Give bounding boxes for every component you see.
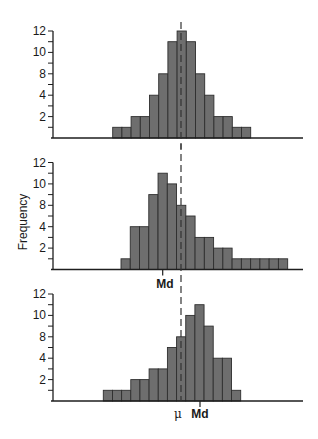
histogram-bar: [167, 184, 176, 270]
y-tick-label: 4: [39, 351, 46, 365]
histogram-bar: [149, 195, 158, 270]
histogram-bar: [149, 369, 158, 401]
histogram-bar: [140, 227, 149, 270]
top-histogram: 2481012: [33, 24, 303, 138]
histogram-bar: [232, 259, 241, 270]
histogram-bar: [214, 248, 223, 269]
histogram-bar: [205, 95, 214, 138]
middle-histogram: 2481012: [33, 156, 303, 276]
histogram-bar: [130, 227, 139, 270]
histogram-bar: [122, 390, 131, 401]
median-label-middle: Md: [156, 277, 173, 291]
y-tick-label: 12: [33, 156, 47, 170]
histogram-bar: [222, 358, 231, 401]
histogram-bar: [140, 117, 149, 138]
histogram-bar: [103, 390, 112, 401]
histogram-bar: [159, 74, 168, 138]
y-tick-label: 10: [33, 45, 47, 59]
histogram-bar: [177, 31, 186, 138]
histogram-bar: [204, 326, 213, 401]
y-tick-label: 2: [39, 373, 46, 387]
y-tick-label: 4: [39, 88, 46, 102]
histogram-bar: [242, 127, 251, 138]
bottom-histogram: 2481012: [33, 287, 303, 407]
y-tick-label: 12: [33, 287, 47, 301]
histogram-bar: [121, 259, 130, 270]
histogram-bar: [150, 95, 159, 138]
histogram-bar: [223, 117, 232, 138]
histogram-bar: [223, 248, 232, 269]
y-tick-label: 2: [39, 241, 46, 255]
histogram-bar: [241, 259, 250, 270]
y-tick-label: 12: [33, 24, 47, 38]
histogram-bar: [113, 127, 122, 138]
histogram-bar: [186, 42, 195, 138]
histogram-bar: [260, 259, 269, 270]
histogram-bar: [278, 259, 287, 270]
mean-label-bottom: μ: [174, 407, 182, 421]
histogram-bar: [195, 305, 204, 401]
histogram-bar: [214, 117, 223, 138]
y-tick-label: 8: [39, 330, 46, 344]
histogram-bar: [131, 117, 140, 138]
histogram-bar: [251, 259, 260, 270]
y-axis-label: Frequency: [16, 194, 30, 251]
histogram-figure: 248101224810122481012 Frequency Md μ Md: [0, 0, 318, 439]
histogram-bar: [158, 173, 167, 269]
y-tick-label: 8: [39, 67, 46, 81]
y-tick-label: 4: [39, 220, 46, 234]
histogram-bar: [131, 380, 140, 401]
histogram-stack: 248101224810122481012 Frequency Md μ Md: [0, 0, 318, 439]
y-tick-label: 10: [33, 177, 47, 191]
histogram-bar: [158, 369, 167, 401]
histogram-bar: [168, 42, 177, 138]
histogram-bar: [232, 127, 241, 138]
y-tick-label: 2: [39, 110, 46, 124]
histogram-bar: [213, 358, 222, 401]
histogram-bar: [232, 390, 241, 401]
histogram-bar: [140, 380, 149, 401]
histogram-bar: [186, 216, 195, 270]
histogram-bar: [186, 315, 195, 401]
histogram-bar: [195, 237, 204, 269]
median-label-bottom: Md: [191, 407, 208, 421]
histogram-bar: [112, 390, 121, 401]
histogram-bar: [204, 237, 213, 269]
y-tick-label: 8: [39, 198, 46, 212]
y-tick-label: 10: [33, 308, 47, 322]
histogram-bar: [122, 127, 131, 138]
histogram-bar: [167, 348, 176, 402]
histogram-bar: [196, 74, 205, 138]
histogram-bar: [269, 259, 278, 270]
